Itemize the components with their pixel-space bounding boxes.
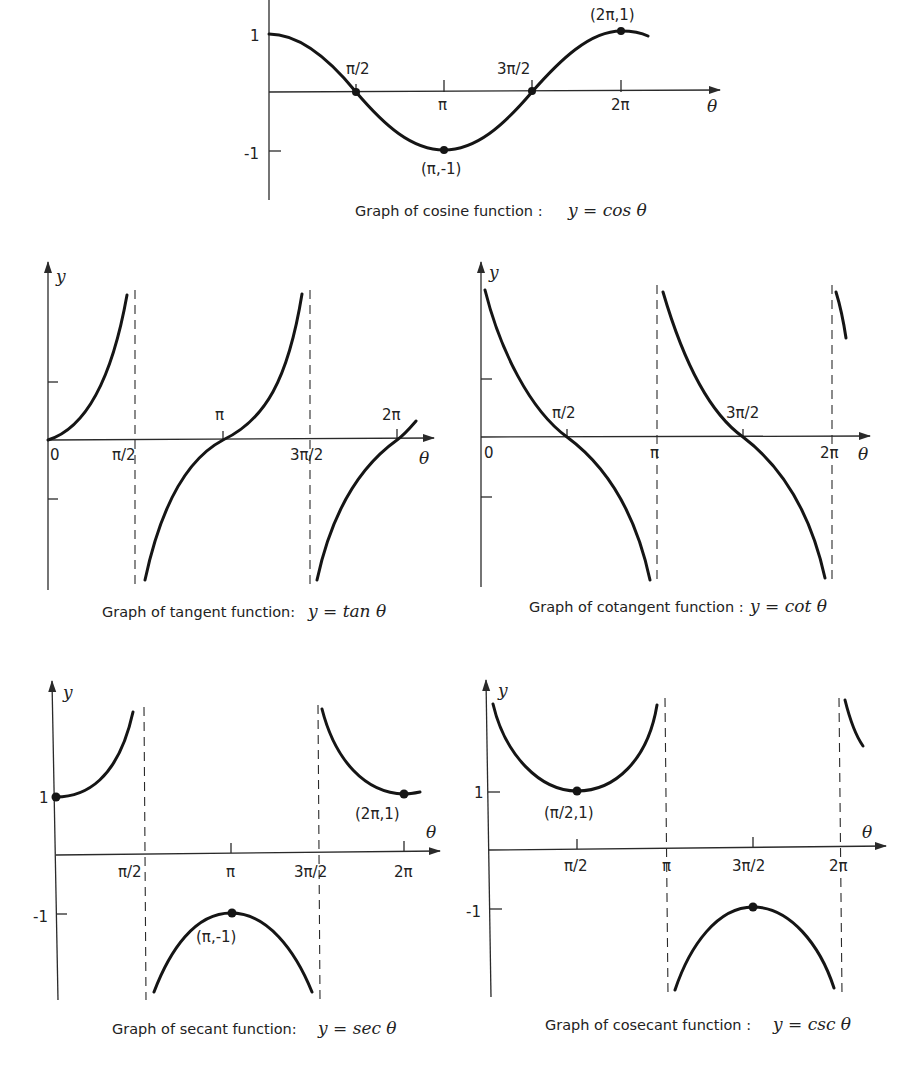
x-axis xyxy=(56,851,440,855)
cotangent-graph: y 0 π/2 π 3π/2 2π θ Graph of cotangent f… xyxy=(481,262,870,616)
x-label-0: 0 xyxy=(484,444,494,462)
caption-equation: y = tan θ xyxy=(307,601,386,621)
y-axis xyxy=(52,681,58,1000)
x-label-pi: π xyxy=(215,406,224,424)
caption-equation: y = cot θ xyxy=(749,596,827,616)
caption: Graph of cosecant function : xyxy=(545,1017,751,1033)
x-label-pi-over-2: π/2 xyxy=(552,404,576,422)
x-label-3pi-over-2: 3π/2 xyxy=(294,863,327,881)
theta-label: θ xyxy=(862,822,872,842)
cosine-graph: 1 -1 π/2 π 3π/2 2π θ (π,-1) (2π,1) Graph… xyxy=(244,0,720,220)
x-label-2pi: 2π xyxy=(394,863,413,881)
y-tick-minus-1: -1 xyxy=(244,145,259,163)
x-label-2pi: 2π xyxy=(382,406,401,424)
caption-equation: y = cos θ xyxy=(567,200,647,220)
secant-curve xyxy=(56,712,133,797)
x-label-3pi-over-2: 3π/2 xyxy=(290,446,323,464)
caption: Graph of cosine function : xyxy=(355,203,543,219)
x-label-pi-over-2: π/2 xyxy=(118,863,142,881)
asymptote-pi xyxy=(665,698,668,995)
caption-equation: y = csc θ xyxy=(772,1014,851,1034)
point-label-min: (π,-1) xyxy=(196,928,236,946)
y-tick-minus-1: -1 xyxy=(33,908,48,926)
caption: Graph of secant function: xyxy=(112,1021,297,1037)
x-label-0: 0 xyxy=(50,446,60,464)
y-label: y xyxy=(55,266,66,286)
tangent-curve xyxy=(48,295,127,440)
x-label-3pi-over-2: 3π/2 xyxy=(497,60,530,78)
y-tick-minus-1: -1 xyxy=(466,903,481,921)
x-axis xyxy=(48,438,434,440)
secant-graph: y 1 -1 π/2 π 3π/2 2π θ (π,-1) (2π,1) Gra… xyxy=(33,681,440,1038)
cosecant-curve xyxy=(493,704,657,791)
x-axis xyxy=(489,846,886,850)
y-label: y xyxy=(497,680,508,700)
y-tick-1: 1 xyxy=(39,789,49,807)
caption: Graph of tangent function: xyxy=(102,604,295,620)
caption: Graph of cotangent function : xyxy=(529,599,744,615)
y-label: y xyxy=(488,262,499,282)
x-label-pi: π xyxy=(662,857,671,875)
theta-label: θ xyxy=(419,448,429,468)
x-label-pi-over-2: π/2 xyxy=(112,446,136,464)
cosecant-graph: y 1 -1 (π/2,1) π/2 π 3π/2 2π θ Graph of … xyxy=(466,680,886,1034)
point-label-max: (2π,1) xyxy=(590,6,635,24)
y-tick-1: 1 xyxy=(474,784,484,802)
x-label-pi: π xyxy=(226,863,235,881)
x-label-2pi: 2π xyxy=(611,96,630,114)
x-axis xyxy=(481,436,870,437)
point-label-min: (π/2,1) xyxy=(544,804,594,822)
x-label-pi: π xyxy=(650,444,659,462)
y-tick-1: 1 xyxy=(250,27,260,45)
point-label-min: (π,-1) xyxy=(421,160,461,178)
theta-label: θ xyxy=(426,822,436,842)
x-label-3pi-over-2: 3π/2 xyxy=(732,857,765,875)
caption-equation: y = sec θ xyxy=(317,1018,397,1038)
y-label: y xyxy=(62,682,73,702)
trig-graphs-figure: 1 -1 π/2 π 3π/2 2π θ (π,-1) (2π,1) Graph… xyxy=(0,0,904,1066)
theta-label: θ xyxy=(858,444,868,464)
x-label-2pi: 2π xyxy=(829,857,848,875)
x-label-2pi: 2π xyxy=(820,444,839,462)
point-label-max: (2π,1) xyxy=(355,805,400,823)
x-label-3pi-over-2: 3π/2 xyxy=(726,404,759,422)
x-label-pi-over-2: π/2 xyxy=(564,857,588,875)
x-label-pi-over-2: π/2 xyxy=(346,60,370,78)
y-axis xyxy=(486,680,491,997)
theta-label: θ xyxy=(707,96,717,116)
tangent-graph: y 0 π/2 π 3π/2 2π θ Graph of tangent fun… xyxy=(48,262,434,621)
x-axis xyxy=(269,90,720,92)
x-label-pi: π xyxy=(438,96,447,114)
